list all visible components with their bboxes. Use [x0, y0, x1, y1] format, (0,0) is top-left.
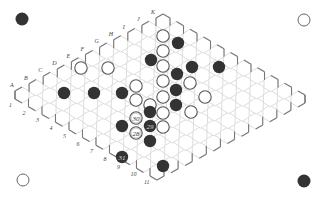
hex-cell-G10[interactable] [221, 112, 235, 128]
white-stone [75, 62, 87, 74]
hex-cell-J8[interactable] [236, 75, 250, 91]
black-stone [213, 61, 225, 73]
white-stone: 28 [130, 127, 142, 139]
black-stone [157, 160, 169, 172]
column-label: D [51, 60, 57, 66]
white-stone [157, 30, 169, 42]
black-stone [116, 87, 128, 99]
top-right-white-marker [298, 14, 310, 26]
move-number: 29 [147, 123, 155, 131]
row-label: 7 [90, 148, 94, 154]
row-label: 5 [63, 133, 66, 139]
hex-cell-B6[interactable] [97, 118, 111, 134]
column-label: B [24, 75, 28, 81]
column-label: G [95, 38, 100, 44]
move-number: 28 [133, 130, 141, 138]
row-label: 9 [117, 164, 120, 170]
white-stone [157, 45, 169, 57]
hex-board-stage: ABCDEFGHIJK123456789101130292831 [0, 0, 327, 203]
hex-cell-I9[interactable] [236, 90, 250, 106]
white-stone [157, 121, 169, 133]
hex-cell-J4[interactable] [182, 44, 196, 60]
row-label: 10 [131, 171, 137, 177]
hex-cell-G9[interactable] [208, 105, 222, 121]
row-label: 1 [9, 102, 12, 108]
black-stone [170, 84, 182, 96]
column-label: H [108, 31, 114, 37]
hex-cell-G3[interactable] [127, 59, 141, 75]
move-number: 31 [118, 154, 126, 162]
black-stone [116, 120, 128, 132]
black-stone [170, 99, 182, 111]
hex-cell-E3[interactable] [98, 73, 112, 89]
black-stone [145, 54, 157, 66]
white-stone [157, 91, 169, 103]
top-left-black-marker [16, 13, 29, 26]
hex-cell-B2[interactable] [43, 87, 57, 103]
white-stone [157, 107, 169, 119]
black-stone [186, 61, 198, 73]
hex-board[interactable]: ABCDEFGHIJK123456789101130292831 [0, 0, 327, 203]
column-label: I [122, 24, 126, 30]
white-stone [157, 75, 169, 87]
white-stone [199, 91, 211, 103]
black-stone: 31 [116, 151, 128, 163]
column-label: E [65, 53, 70, 59]
white-stone [184, 77, 196, 89]
move-number: 30 [132, 115, 141, 123]
hex-cell-H9[interactable] [222, 97, 236, 113]
hex-cell-B5[interactable] [83, 110, 97, 126]
column-label: K [150, 9, 156, 15]
row-label: 6 [77, 141, 80, 147]
white-stone [130, 80, 142, 92]
hex-cell-G2[interactable] [113, 51, 127, 67]
hex-cell-G4[interactable] [140, 66, 154, 82]
row-label: 11 [144, 179, 150, 185]
bottom-right-black-marker [298, 175, 311, 188]
black-stone [172, 37, 184, 49]
hex-cell-E10[interactable] [193, 127, 207, 143]
hex-cell-J9[interactable] [250, 83, 264, 99]
row-label: 4 [50, 125, 53, 131]
hex-cell-I7[interactable] [209, 75, 223, 91]
hex-cell-C10[interactable] [165, 142, 179, 158]
hex-cell-H2[interactable] [127, 44, 141, 60]
white-stone [102, 62, 114, 74]
black-stone [144, 135, 156, 147]
hex-cell-E9[interactable] [179, 119, 193, 135]
white-stone [157, 60, 169, 72]
hex-cell-I4[interactable] [168, 52, 182, 68]
black-stone: 29 [144, 120, 156, 132]
black-stone [144, 106, 156, 118]
black-stone [171, 68, 183, 80]
hex-cell-I8[interactable] [222, 82, 236, 98]
black-stone [58, 87, 70, 99]
row-label: 3 [35, 117, 39, 123]
hex-cell-J10[interactable] [263, 91, 277, 107]
row-label: 2 [23, 110, 26, 116]
row-label: 8 [104, 156, 107, 162]
hex-cell-C5[interactable] [97, 103, 111, 119]
hex-cell-F10[interactable] [207, 120, 221, 136]
white-stone: 30 [130, 112, 142, 124]
column-label: A [9, 82, 14, 88]
hex-cell-D4[interactable] [98, 88, 112, 104]
hex-cell-B4[interactable] [70, 103, 84, 119]
hex-cell-I2[interactable] [141, 36, 155, 52]
hex-cell-J7[interactable] [223, 67, 237, 83]
white-stone [185, 106, 197, 118]
hex-cell-C3[interactable] [70, 88, 84, 104]
hex-cell-D2[interactable] [71, 73, 85, 89]
column-label: F [80, 46, 85, 52]
column-label: J [137, 16, 140, 22]
white-stone [130, 94, 142, 106]
hex-cell-H10[interactable] [235, 105, 249, 121]
hex-cell-D10[interactable] [179, 134, 193, 150]
hex-cell-G7[interactable] [181, 89, 195, 105]
column-label: C [38, 67, 43, 73]
black-stone [88, 87, 100, 99]
bottom-left-white-marker [17, 174, 29, 186]
hex-cell-I10[interactable] [249, 98, 263, 114]
